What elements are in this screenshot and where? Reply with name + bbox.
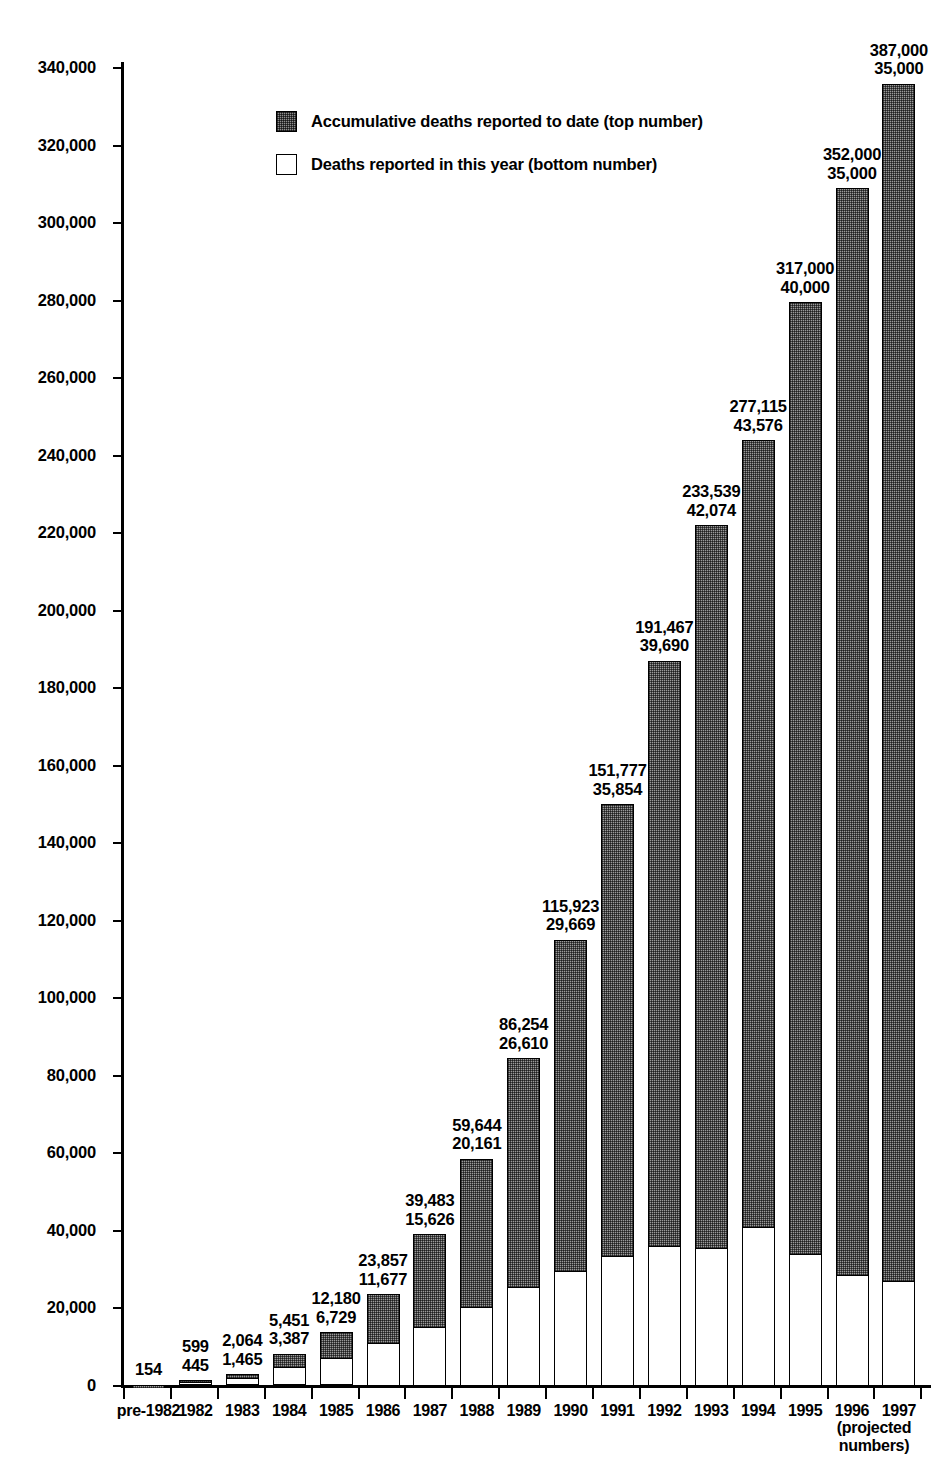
y-axis-tick-label: 40,000 xyxy=(0,1222,96,1239)
x-axis-tick xyxy=(545,1388,547,1399)
y-axis-tick-label: 140,000 xyxy=(0,834,96,851)
legend-item-cumulative: Accumulative deaths reported to date (to… xyxy=(276,106,703,137)
y-axis-tick-label: 200,000 xyxy=(0,602,96,619)
bar-value-annual: 35,000 xyxy=(839,59,939,78)
y-axis-tick xyxy=(113,377,122,379)
x-axis-tick xyxy=(311,1388,313,1399)
bar-segment-cumulative xyxy=(837,189,868,1276)
projected-note-line-1: (projected xyxy=(814,1419,934,1437)
y-axis-tick xyxy=(113,67,122,69)
x-axis-tick xyxy=(639,1388,641,1399)
y-axis-tick xyxy=(113,765,122,767)
bar-value-annual: 43,576 xyxy=(698,416,818,435)
bar-value-label: 12,1806,729 xyxy=(276,1289,396,1326)
x-axis-tick xyxy=(404,1388,406,1399)
bar-1990 xyxy=(554,940,587,1386)
x-axis-tick xyxy=(780,1388,782,1399)
y-axis-tick xyxy=(113,145,122,147)
y-axis-tick-label: 340,000 xyxy=(0,59,96,76)
y-axis-tick xyxy=(113,532,122,534)
bar-segment-cumulative xyxy=(743,441,774,1228)
bar-segment-cumulative xyxy=(883,85,914,1282)
x-axis-tick xyxy=(451,1388,453,1399)
bar-value-cumulative: 191,467 xyxy=(604,618,724,637)
bar-1996 xyxy=(836,188,869,1385)
y-axis-tick xyxy=(113,920,122,922)
bar-value-cumulative: 317,000 xyxy=(745,259,865,278)
legend-item-annual: Deaths reported in this year (bottom num… xyxy=(276,149,703,180)
bar-value-cumulative: 277,115 xyxy=(698,397,818,416)
bar-1991 xyxy=(601,804,634,1385)
y-axis-tick-label: 0 xyxy=(0,1377,96,1394)
bar-value-cumulative: 39,483 xyxy=(370,1191,490,1210)
x-axis-tick xyxy=(686,1388,688,1399)
x-axis-category-label: 1997 xyxy=(839,1402,939,1420)
bar-value-label: 352,00035,000 xyxy=(792,145,912,182)
bar-value-cumulative: 23,857 xyxy=(323,1251,443,1270)
y-axis-tick xyxy=(113,1230,122,1232)
y-axis-tick-label: 100,000 xyxy=(0,989,96,1006)
bar-value-annual: 15,626 xyxy=(370,1210,490,1229)
bar-value-annual: 29,669 xyxy=(511,915,631,934)
x-axis-tick xyxy=(873,1388,875,1399)
y-axis-tick-label: 180,000 xyxy=(0,679,96,696)
bar-value-cumulative: 352,000 xyxy=(792,145,912,164)
bar-segment-cumulative xyxy=(649,662,680,1247)
bar-value-label: 59,64420,161 xyxy=(417,1116,537,1153)
bar-value-label: 277,11543,576 xyxy=(698,397,818,434)
bar-value-cumulative: 59,644 xyxy=(417,1116,537,1135)
projected-note-line-2: numbers) xyxy=(814,1437,934,1455)
bar-pre-1982 xyxy=(132,1385,165,1388)
y-axis-tick-label: 120,000 xyxy=(0,912,96,929)
bar-segment-cumulative xyxy=(790,303,821,1254)
x-axis-tick xyxy=(592,1388,594,1399)
x-axis-tick xyxy=(170,1388,172,1399)
bar-1983 xyxy=(226,1374,259,1385)
y-axis-tick-label: 280,000 xyxy=(0,292,96,309)
legend-swatch-white-icon xyxy=(276,154,297,175)
bar-value-label: 233,53942,074 xyxy=(651,482,771,519)
bar-value-label: 387,00035,000 xyxy=(839,41,939,78)
x-axis-tick xyxy=(217,1388,219,1399)
x-axis-tick xyxy=(827,1388,829,1399)
bar-value-annual: 35,854 xyxy=(558,780,678,799)
bar-value-annual: 35,000 xyxy=(792,164,912,183)
bar-1997 xyxy=(882,84,915,1386)
bar-value-label: 191,46739,690 xyxy=(604,618,724,655)
y-axis-tick-label: 160,000 xyxy=(0,757,96,774)
y-axis-tick-label: 240,000 xyxy=(0,447,96,464)
y-axis-tick-label: 300,000 xyxy=(0,214,96,231)
y-axis-tick xyxy=(113,300,122,302)
y-axis-line xyxy=(121,62,124,1388)
y-axis-tick xyxy=(113,1152,122,1154)
bar-segment-cumulative xyxy=(227,1375,258,1379)
x-axis-tick xyxy=(123,1388,125,1399)
bar-value-label: 23,85711,677 xyxy=(323,1251,443,1288)
bar-segment-cumulative xyxy=(602,805,633,1256)
bar-value-label: 115,92329,669 xyxy=(511,897,631,934)
bar-segment-cumulative xyxy=(461,1160,492,1308)
projected-numbers-note: (projectednumbers) xyxy=(814,1419,934,1455)
bar-value-label: 39,48315,626 xyxy=(370,1191,490,1228)
legend-swatch-hatched-icon xyxy=(276,111,297,132)
bar-segment-cumulative xyxy=(180,1381,211,1383)
bar-value-annual: 26,610 xyxy=(464,1034,584,1053)
bar-value-cumulative: 151,777 xyxy=(558,761,678,780)
bar-value-annual: 1,465 xyxy=(182,1350,302,1369)
y-axis-tick xyxy=(113,842,122,844)
y-axis-tick xyxy=(113,222,122,224)
y-axis-tick xyxy=(113,687,122,689)
bar-chart: 020,00040,00060,00080,000100,000120,0001… xyxy=(0,0,939,1459)
legend-label-annual: Deaths reported in this year (bottom num… xyxy=(311,155,657,174)
chart-legend: Accumulative deaths reported to date (to… xyxy=(276,106,703,192)
y-axis-tick-label: 260,000 xyxy=(0,369,96,386)
y-axis-tick-label: 60,000 xyxy=(0,1144,96,1161)
bar-value-annual: 42,074 xyxy=(651,501,771,520)
bar-value-label: 317,00040,000 xyxy=(745,259,865,296)
x-axis-tick xyxy=(920,1388,922,1399)
bar-value-annual: 39,690 xyxy=(604,636,724,655)
bar-1982 xyxy=(179,1380,212,1385)
y-axis-tick-label: 220,000 xyxy=(0,524,96,541)
y-axis-tick-label: 320,000 xyxy=(0,137,96,154)
bar-1994 xyxy=(742,440,775,1386)
